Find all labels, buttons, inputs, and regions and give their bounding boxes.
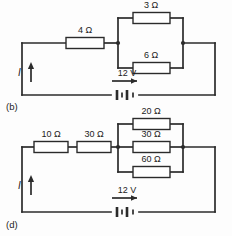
- resistor-d-60ohm-label: 60 Ω: [141, 154, 161, 164]
- resistor-d-10ohm-label: 10 Ω: [41, 129, 61, 139]
- resistor-d-20ohm-label: 20 Ω: [141, 106, 161, 116]
- current-b-arrow-head: [28, 62, 34, 69]
- node-dot-d-right: [181, 145, 185, 149]
- resistor-d-20ohm: [133, 119, 170, 130]
- node-dot-b-left: [116, 41, 120, 45]
- resistor-b-3ohm-label: 3 Ω: [144, 0, 159, 10]
- panel-label-d: (d): [6, 219, 18, 230]
- resistor-d-10ohm: [34, 142, 68, 153]
- node-dot-b-right: [181, 41, 185, 45]
- panel-label-b: (b): [6, 101, 18, 112]
- current-d-label: I: [18, 180, 21, 191]
- circuit-panel-b: 4 Ω 3 Ω 6 Ω 12 V I (b): [6, 0, 215, 112]
- resistor-b-4ohm: [66, 38, 104, 49]
- resistor-d-30ohm-parallel-label: 30 Ω: [141, 129, 161, 139]
- node-dot-d-left: [116, 145, 120, 149]
- resistor-d-60ohm: [133, 167, 170, 178]
- battery-d-voltage-label: 12 V: [118, 185, 137, 195]
- circuit-panel-d: 10 Ω 30 Ω 20 Ω 30 Ω 60 Ω 12 V: [6, 106, 215, 230]
- battery-b-polarity-arrow-head: [131, 78, 137, 84]
- circuit-canvas: 4 Ω 3 Ω 6 Ω 12 V I (b): [0, 0, 232, 236]
- resistor-b-6ohm: [133, 63, 170, 74]
- resistor-b-3ohm: [133, 13, 170, 24]
- resistor-d-30ohm-parallel: [133, 142, 170, 153]
- current-b-label: I: [18, 67, 21, 78]
- resistor-d-30ohm-series-label: 30 Ω: [84, 129, 104, 139]
- current-d-arrow-head: [28, 175, 34, 182]
- resistor-d-30ohm-series: [77, 142, 111, 153]
- resistor-b-4ohm-label: 4 Ω: [78, 25, 93, 35]
- circuit-figure: 4 Ω 3 Ω 6 Ω 12 V I (b): [0, 0, 232, 236]
- battery-d-polarity-arrow-head: [131, 195, 137, 201]
- resistor-b-6ohm-label: 6 Ω: [144, 50, 159, 60]
- battery-b-voltage-label: 12 V: [118, 68, 137, 78]
